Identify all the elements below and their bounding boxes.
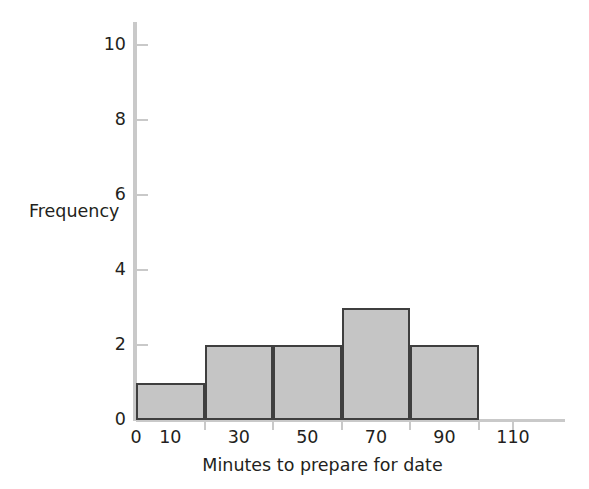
x-axis-tick bbox=[341, 421, 343, 430]
y-axis-tick-label: 0 bbox=[96, 411, 126, 429]
histogram-bar bbox=[342, 308, 411, 421]
histogram-bar bbox=[273, 345, 342, 420]
x-axis-tick-label: 50 bbox=[285, 427, 329, 447]
y-axis-tick-label: 4 bbox=[96, 261, 126, 279]
x-axis-tick-label: 110 bbox=[491, 427, 535, 447]
histogram-bar bbox=[136, 383, 205, 421]
x-axis-tick-label: 30 bbox=[217, 427, 261, 447]
x-axis-tick bbox=[478, 421, 480, 430]
histogram-chart: 0246810 01030507090110 Frequency Minutes… bbox=[0, 0, 589, 489]
histogram-bar bbox=[410, 345, 479, 420]
y-axis-tick bbox=[137, 119, 148, 121]
x-axis-tick bbox=[204, 421, 206, 430]
y-axis-tick-label: 2 bbox=[96, 336, 126, 354]
x-axis-tick-label: 70 bbox=[354, 427, 398, 447]
y-axis-tick bbox=[137, 269, 148, 271]
y-axis-tick-label: 10 bbox=[96, 36, 126, 54]
y-axis-tick bbox=[137, 194, 148, 196]
y-axis-tick bbox=[137, 44, 148, 46]
x-axis-title-wrap: Minutes to prepare for date bbox=[0, 455, 589, 475]
x-axis-tick bbox=[272, 421, 274, 430]
x-axis-tick bbox=[409, 421, 411, 430]
histogram-bar bbox=[205, 345, 274, 420]
x-axis-tick-label: 90 bbox=[422, 427, 466, 447]
x-axis-tick-label: 10 bbox=[148, 427, 192, 447]
y-axis-tick-label: 8 bbox=[96, 111, 126, 129]
y-axis-line bbox=[133, 22, 137, 421]
x-axis-title: Minutes to prepare for date bbox=[202, 455, 442, 475]
y-axis-title: Frequency bbox=[29, 201, 119, 221]
y-axis-tick bbox=[137, 344, 148, 346]
